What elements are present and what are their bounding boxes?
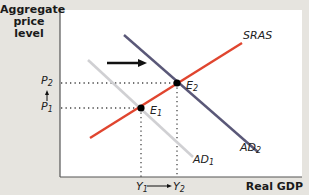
- e1-label: E1: [150, 105, 162, 119]
- ad2-label: AD2: [240, 142, 261, 156]
- e1-point: [137, 104, 144, 111]
- y-arrow-head: [167, 184, 172, 188]
- y2-label: Y2: [173, 181, 185, 195]
- p2-label: P2: [41, 75, 53, 89]
- x-axis-label: Real GDP: [246, 180, 303, 193]
- sras-label: SRAS: [243, 30, 272, 41]
- e2-point: [173, 79, 180, 86]
- y-axis-label: Aggregate price level: [0, 4, 58, 40]
- e2-label: E2: [186, 80, 198, 94]
- p-arrow-head: [45, 90, 49, 95]
- y1-label: Y1: [136, 181, 148, 195]
- ad1-label: AD1: [193, 154, 214, 168]
- p1-label: P1: [41, 101, 53, 115]
- y-axis-label-line3: level: [0, 28, 58, 40]
